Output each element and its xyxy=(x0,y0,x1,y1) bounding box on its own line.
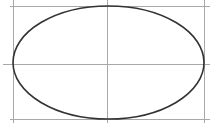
guide-lines xyxy=(3,0,210,123)
ellipse-diagram xyxy=(0,0,210,123)
ellipse-shape xyxy=(13,6,204,119)
diagram-canvas xyxy=(0,0,210,123)
